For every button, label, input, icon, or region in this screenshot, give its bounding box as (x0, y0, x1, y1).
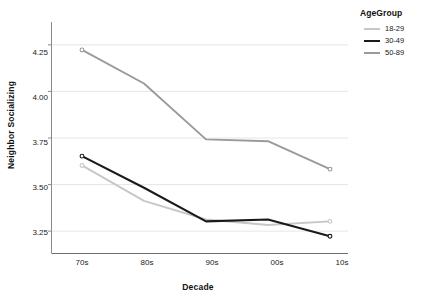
legend-item-18-29[interactable]: 18-29 (358, 23, 430, 34)
line-chart: Neighbor Socializing 4.25 4.00 3.75 3.50… (0, 0, 432, 297)
legend-label: 50-89 (385, 48, 404, 57)
legend-swatch-18-29 (364, 28, 380, 30)
data-point-marker (80, 48, 84, 52)
data-point-marker (80, 164, 84, 168)
series-layer (80, 48, 332, 238)
legend-swatch-30-49 (364, 40, 380, 42)
x-tick-label-80s: 80s (127, 258, 167, 267)
gridlines (48, 45, 348, 231)
x-tick-label-00s: 00s (257, 258, 297, 267)
x-tick-label-90s: 90s (192, 258, 232, 267)
y-tick-label-3-50: 3.50 (14, 183, 48, 192)
legend-items: 18-2930-4950-89 (358, 23, 430, 58)
legend-item-30-49[interactable]: 30-49 (358, 35, 430, 46)
x-axis-title-wrapper: Decade (48, 276, 348, 294)
data-point-marker (80, 154, 84, 158)
y-tick-label-4-00: 4.00 (14, 93, 48, 102)
y-tick-label-3-75: 3.75 (14, 138, 48, 147)
y-axis-title-wrapper: Neighbor Socializing (2, 0, 20, 250)
legend-item-50-89[interactable]: 50-89 (358, 47, 430, 58)
x-tick-label-10s: 10s (322, 258, 362, 267)
y-tick-label-4-25: 4.25 (14, 48, 48, 57)
legend: AgeGroup 18-2930-4950-89 (358, 8, 430, 59)
y-tick-label-3-25: 3.25 (14, 228, 48, 237)
x-axis-title: Decade (182, 282, 213, 292)
legend-label: 18-29 (385, 24, 404, 33)
series-line-50-89 (82, 50, 330, 169)
data-point-marker (328, 219, 332, 223)
legend-swatch-50-89 (364, 52, 380, 54)
data-point-marker (328, 167, 332, 171)
legend-label: 30-49 (385, 36, 404, 45)
x-tick-label-70s: 70s (62, 258, 102, 267)
data-point-marker (328, 234, 332, 238)
legend-title: AgeGroup (360, 8, 430, 18)
